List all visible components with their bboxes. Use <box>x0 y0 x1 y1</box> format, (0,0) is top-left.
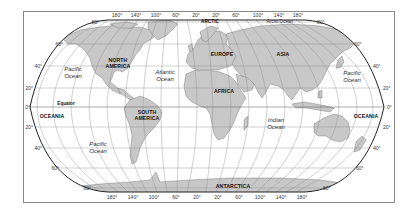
lat-label: 20° <box>25 124 33 130</box>
label-pacific-nw: Pacific <box>64 66 82 72</box>
lon-label: 100° <box>151 12 161 18</box>
label-pacific-ne: Ocean <box>343 77 361 83</box>
lat-label: 40° <box>373 145 381 151</box>
label-atlantic: Atlantic <box>154 69 175 75</box>
label-asia: ASIA <box>277 51 290 57</box>
lon-label: 100° <box>253 12 263 18</box>
lon-label: 60° <box>172 194 180 200</box>
lon-label: 180° <box>112 12 122 18</box>
label-arctic-ocean: Arctic Ocean <box>266 19 294 24</box>
label-pacific-s: Pacific <box>89 141 107 147</box>
lat-label: 80° <box>91 19 99 25</box>
label-pacific-nw: Ocean <box>64 73 82 79</box>
lon-label: 20° <box>212 12 220 18</box>
lon-label: 60° <box>232 12 240 18</box>
lon-label: 140° <box>128 194 138 200</box>
lat-label: 40° <box>373 63 381 69</box>
lon-label: 100° <box>149 194 159 200</box>
lon-label: 140° <box>274 12 284 18</box>
lat-label: 60° <box>51 165 59 171</box>
label-pacific-s: Ocean <box>89 148 107 154</box>
lon-label: 140° <box>276 194 286 200</box>
label-pacific-ne: Pacific <box>343 70 361 76</box>
lon-label: 20° <box>192 12 200 18</box>
lat-label: 80° <box>317 19 325 25</box>
lat-label: 40° <box>34 63 42 69</box>
lon-label: 180° <box>297 194 307 200</box>
lat-label: 80° <box>83 185 91 191</box>
lon-label: 20° <box>214 194 222 200</box>
label-europe: EUROPE <box>211 51 234 57</box>
label-indian: Indian <box>268 117 285 123</box>
lat-label: 20° <box>25 85 33 91</box>
lat-label: 60° <box>356 165 364 171</box>
lon-label: 20° <box>193 194 201 200</box>
lat-label: 0° <box>387 104 392 110</box>
label-indian: Ocean <box>267 124 285 130</box>
lon-label: 100° <box>255 194 265 200</box>
lat-label: 40° <box>34 145 42 151</box>
lat-label: 60° <box>55 41 63 47</box>
lat-label: 0° <box>25 104 30 110</box>
label-antarctica: ANTARCTICA <box>216 183 251 189</box>
lon-label: 140° <box>131 12 141 18</box>
lon-label: 60° <box>235 194 243 200</box>
label-africa: AFRICA <box>214 88 234 94</box>
label-oceania-right: OCEANIA <box>354 113 379 119</box>
lon-label: 180° <box>293 12 303 18</box>
world-map: 180° 140° 100° 60° 20° 20° 60° 100° 140°… <box>0 0 413 212</box>
map-body <box>25 15 390 200</box>
label-atlantic: Ocean <box>156 76 174 82</box>
lat-label: 60° <box>354 41 362 47</box>
lat-label: 20° <box>383 85 391 91</box>
label-south-america: AMERICA <box>135 115 160 121</box>
lon-label: 60° <box>172 12 180 18</box>
label-oceania-left: OCEANIA <box>40 113 65 119</box>
label-north-america: AMERICA <box>106 63 131 69</box>
label-equator: Equator <box>57 101 75 106</box>
lat-label: 80° <box>323 185 331 191</box>
lon-label: 180° <box>107 194 117 200</box>
label-arctic: ARCTIC <box>201 19 220 24</box>
lat-label: 20° <box>383 124 391 130</box>
